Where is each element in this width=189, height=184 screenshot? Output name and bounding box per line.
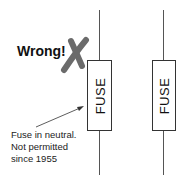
- annotation-note: Fuse in neutral. Not permitted since 195…: [11, 129, 76, 165]
- annotation-line-3: since 1955: [11, 153, 76, 165]
- annotation-line-2: Not permitted: [11, 141, 76, 153]
- annotation-line-1: Fuse in neutral.: [11, 129, 76, 141]
- cross-mark-icon: [64, 40, 86, 70]
- pointer-arrow-icon: [36, 106, 84, 127]
